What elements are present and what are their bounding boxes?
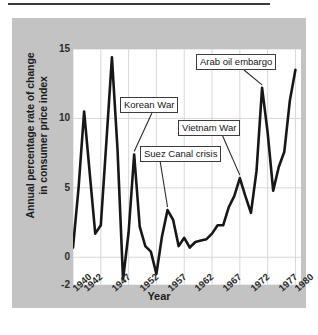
y-axis-label-line1: Annual percentage rate of change xyxy=(24,36,37,236)
top-divider-rule xyxy=(8,3,270,5)
plot-svg xyxy=(73,49,301,285)
annotation-suez-canal-crisis: Suez Canal crisis xyxy=(140,146,221,162)
y-tick-label: 10 xyxy=(59,113,70,123)
x-axis-label: Year xyxy=(12,290,306,302)
annotation-vietnam-war: Vietnam War xyxy=(178,120,240,136)
annotation-arab-oil-embargo: Arab oil embargo xyxy=(196,54,276,70)
y-tick-label: -2 xyxy=(61,280,70,290)
y-axis-label: Annual percentage rate of change in cons… xyxy=(24,36,49,236)
annotation-korean-war: Korean War xyxy=(120,97,178,113)
chart-figure-root: -2051015 Annual percentage rate of chang… xyxy=(0,0,318,335)
plot-area xyxy=(73,49,301,285)
figure-panel: -2051015 Annual percentage rate of chang… xyxy=(12,18,306,308)
leader-line-arab-oil-embargo xyxy=(244,70,262,85)
y-tick-label: 5 xyxy=(64,183,70,193)
y-axis-label-line2: in consumer price index xyxy=(36,36,49,236)
y-gridlines xyxy=(73,49,301,285)
y-tick-label: 15 xyxy=(59,44,70,54)
y-tick-label: 0 xyxy=(64,252,70,262)
leader-line-vietnam-war xyxy=(223,136,240,175)
leader-line-suez-canal-crisis xyxy=(160,162,167,207)
